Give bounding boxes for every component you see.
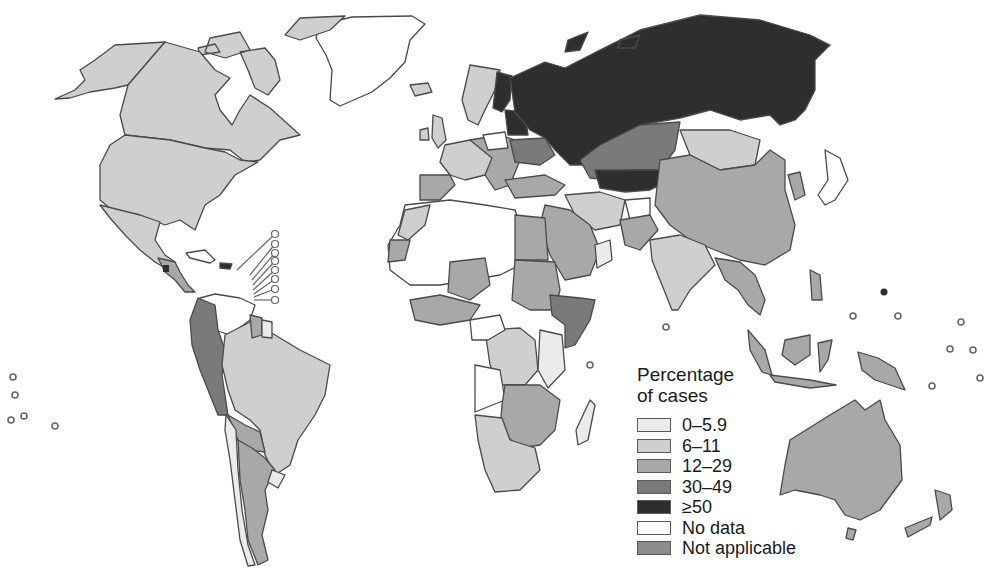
region-suriname [262,320,272,338]
legend-swatch [637,418,671,432]
legend-swatch [637,521,671,535]
region-madagascar [576,400,595,445]
region-ireland [420,128,429,140]
legend-item: Not applicable [637,538,897,559]
region-iberia [420,175,455,200]
legend-label: 0–5.9 [682,415,727,435]
legend-label: 12–29 [682,456,732,476]
region-philippines [810,270,822,300]
legend-title-line2: of cases [637,385,897,406]
legend-swatch [637,541,671,555]
legend-item: ≥50 [637,497,897,518]
legend-item: 30–49 [637,477,897,498]
region-sahel [448,258,490,300]
legend-label: ≥50 [682,497,712,517]
region-east-africa [538,330,565,388]
legend-label: Not applicable [682,538,796,558]
region-uk [432,115,446,148]
region-uruguay [268,470,285,488]
region-iceland [410,83,432,96]
region-greenland [316,16,425,106]
map-legend: Percentage of cases 0–5.9 6–11 12–29 30–… [637,364,897,559]
legend-title-line1: Percentage [637,364,897,385]
region-angola [475,365,505,412]
legend-swatch [637,500,671,514]
region-india [650,235,715,310]
region-guyana [250,315,262,338]
legend-swatch [637,459,671,473]
legend-title: Percentage of cases [637,364,897,406]
region-finland [493,72,512,112]
legend-item: No data [637,518,897,539]
legend-swatch [637,480,671,494]
region-turkey [505,175,565,198]
legend-item: 0–5.9 [637,415,897,436]
legend-item: 12–29 [637,456,897,477]
region-egypt [515,215,548,260]
region-korea-japan [788,172,805,200]
region-poland [483,132,508,150]
region-cuba [186,250,215,263]
region-japan [818,150,848,205]
legend-label: 30–49 [682,477,732,497]
legend-item: 6–11 [637,436,897,457]
region-central-america [158,258,195,292]
region-southeast-asia [715,258,765,315]
region-hispaniola [220,263,232,269]
region-guatemala [163,265,169,272]
caribbean-pointers [237,231,279,304]
region-new-zealand [905,490,952,537]
region-borneo [782,335,810,365]
region-oman [595,240,612,268]
legend-swatch [637,439,671,453]
legend-label: 6–11 [682,436,721,456]
legend-label: No data [682,518,745,538]
